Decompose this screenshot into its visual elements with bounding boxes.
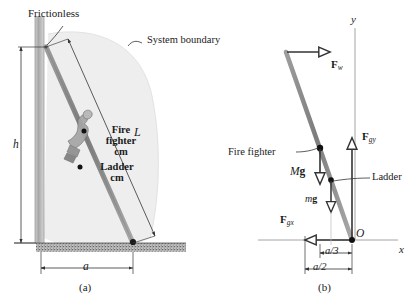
force-ground-y-symbol: F bbox=[362, 130, 369, 142]
ladder-cm-line1: Ladder bbox=[88, 161, 146, 172]
panel-a-caption: (a) bbox=[79, 282, 91, 294]
axis-y-label: y bbox=[351, 14, 356, 26]
weight-firefighter-label: Mg bbox=[290, 165, 305, 177]
firefighter-cm-line2: fighter bbox=[95, 135, 147, 146]
system-boundary-label: System boundary bbox=[147, 34, 220, 45]
ladder-cm-dot bbox=[78, 165, 83, 170]
dim-a-over-3-label: a/3 bbox=[325, 245, 338, 256]
height-label: h bbox=[13, 138, 19, 150]
ground-surface bbox=[36, 243, 186, 252]
system-boundary-leader bbox=[128, 41, 142, 46]
force-ground-y-label: Fgy bbox=[362, 131, 376, 144]
base-label: a bbox=[83, 260, 89, 272]
firefighter-cm-line3: cm bbox=[95, 146, 147, 157]
weight-ladder-label: mg bbox=[305, 194, 317, 205]
origin-label: O bbox=[356, 227, 364, 239]
figure-vector-layer bbox=[0, 0, 409, 306]
firefighter-cm-dot bbox=[82, 129, 87, 134]
weight-firefighter-mass: M bbox=[290, 165, 300, 177]
force-wall-label: Fw bbox=[331, 59, 343, 72]
dim-a-over-2-label: a/2 bbox=[313, 261, 326, 272]
force-wall-subscript: w bbox=[338, 63, 343, 72]
origin-point bbox=[349, 237, 355, 243]
ladder-cm-line2: cm bbox=[88, 172, 146, 183]
firefighter-callout-label: Fire fighter bbox=[228, 146, 276, 157]
firefighter-cm-label: Fire fighter cm bbox=[95, 124, 147, 157]
force-ground-x-subscript: gx bbox=[287, 218, 294, 227]
wall-shape bbox=[35, 16, 44, 243]
firefighter-cm-line1: Fire bbox=[95, 124, 147, 135]
ladder-cm-label: Ladder cm bbox=[88, 161, 146, 183]
force-ground-y-subscript: gy bbox=[369, 135, 376, 144]
force-ground-x-symbol: F bbox=[280, 213, 287, 225]
firefighter-callout-leader bbox=[296, 148, 318, 152]
force-wall-symbol: F bbox=[331, 58, 338, 70]
ladder-callout-label: Ladder bbox=[372, 171, 402, 182]
weight-ladder-gravity: g bbox=[312, 193, 317, 204]
weight-firefighter-gravity: g bbox=[300, 165, 306, 177]
frictionless-label: Frictionless bbox=[28, 8, 79, 20]
figure-canvas: Frictionless System boundary L Fire figh… bbox=[0, 0, 409, 306]
axis-x-label: x bbox=[399, 244, 404, 256]
panel-b-caption: (b) bbox=[318, 282, 331, 294]
force-ground-x-label: Fgx bbox=[280, 214, 294, 227]
